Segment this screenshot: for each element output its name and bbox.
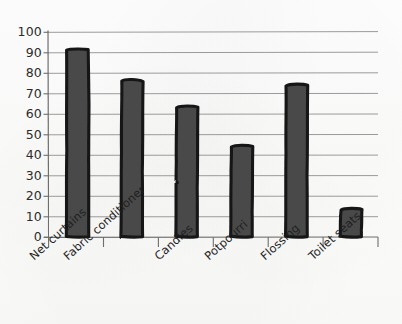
xtick-label-candles: Candles <box>153 223 195 263</box>
xtick-label-toilet-seats: Toilet seats <box>307 210 363 262</box>
bar-chart-figure: 100 90 80 70 60 50 40 30 20 10 0 Net cur… <box>0 0 402 324</box>
xtick-label-flossing: Flossing <box>259 222 302 262</box>
xtick-label-potpourri: Potpourri <box>203 219 250 263</box>
x-axis-tick-labels: Net curtains Fabric conditioner Candles … <box>0 0 402 324</box>
